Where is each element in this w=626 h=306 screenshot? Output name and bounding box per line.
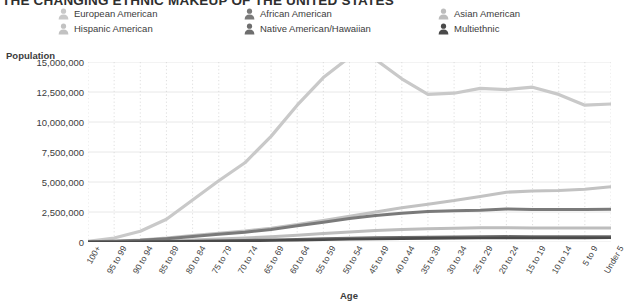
y-axis-tick-labels: 02,500,0005,000,0007,500,00010,000,00012… [0, 0, 84, 306]
x-axis-tick-label: 35 to 39 [419, 244, 443, 276]
x-axis-tick-label: 45 to 49 [366, 244, 390, 276]
y-axis-tick-label: 12,500,000 [2, 87, 84, 98]
x-axis-tick-label: 75 to 79 [209, 244, 233, 276]
x-axis-tick-label: 65 to 69 [262, 244, 286, 276]
x-axis-tick-label: 85 to 89 [157, 244, 181, 276]
chart-legend: European AmericanHispanic AmericanAfrica… [58, 8, 618, 40]
legend-item-label: Multiethnic [454, 23, 499, 35]
x-axis-tick-label: 60 to 64 [288, 244, 312, 276]
x-axis-tick-label: 40 to 44 [392, 244, 416, 276]
x-axis-tick-labels: 100+95 to 9990 to 9485 to 8980 to 8475 t… [88, 244, 621, 290]
y-axis-tick-label: 0 [2, 237, 84, 248]
x-axis-tick-label: Under 5 [602, 244, 626, 275]
y-axis-tick-label: 7,500,000 [2, 147, 84, 158]
x-axis-title: Age [340, 290, 358, 301]
x-axis-tick-label: 70 to 74 [236, 244, 260, 276]
line-chart-svg [88, 62, 611, 242]
person-icon [438, 8, 449, 20]
x-axis-tick-label: 15 to 19 [523, 244, 547, 276]
legend-item-label: Native American/Hawaiian [260, 23, 371, 35]
legend-item[interactable]: African American [244, 8, 332, 20]
y-axis-tick-label: 5,000,000 [2, 177, 84, 188]
x-axis-tick-label: 100+ [84, 244, 102, 266]
x-axis-tick-label: 10 to 14 [549, 244, 573, 276]
legend-item-label: European American [74, 8, 157, 20]
person-icon [438, 23, 449, 35]
legend-item-label: Asian American [454, 8, 520, 20]
y-axis-tick-label: 2,500,000 [2, 207, 84, 218]
x-axis-tick-label: 55 to 59 [314, 244, 338, 276]
person-icon [244, 8, 255, 20]
x-axis-tick-label: 50 to 54 [340, 244, 364, 276]
plot-area [88, 62, 611, 242]
x-axis-tick-label: 95 to 99 [105, 244, 129, 276]
x-axis-tick-label: 25 to 29 [471, 244, 495, 276]
legend-item[interactable]: Native American/Hawaiian [244, 23, 371, 35]
person-icon [244, 23, 255, 35]
x-axis-tick-label: 20 to 24 [497, 244, 521, 276]
y-axis-tick-label: 10,000,000 [2, 117, 84, 128]
legend-item[interactable]: Multiethnic [438, 23, 499, 35]
y-axis-tick-label: 15,000,000 [2, 57, 84, 68]
x-axis-tick-label: 80 to 84 [183, 244, 207, 276]
legend-item-label: Hispanic American [74, 23, 153, 35]
legend-item-label: African American [260, 8, 332, 20]
legend-item[interactable]: Asian American [438, 8, 520, 20]
x-axis-tick-label: 5 to 9 [580, 244, 599, 267]
x-axis-tick-label: 90 to 94 [131, 244, 155, 276]
x-axis-tick-label: 30 to 34 [445, 244, 469, 276]
